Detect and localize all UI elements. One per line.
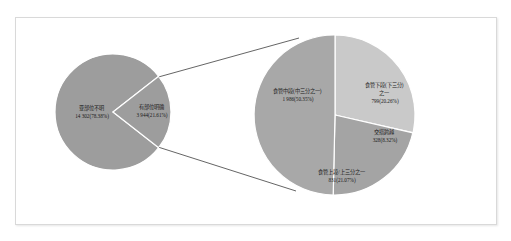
left-pie-group: 亚部位不明 14 302(78.38%) 有部位明确 3 944(21.61%) [55, 54, 171, 170]
right-pie-group: 食管下段(下三分) 之一 799(20.26%) 交搭跨越 328(8.32%)… [254, 35, 415, 195]
figure-container: 亚部位不明 14 302(78.38%) 有部位明确 3 944(21.61%)… [0, 0, 511, 241]
pie-chart-svg: 亚部位不明 14 302(78.38%) 有部位明确 3 944(21.61%)… [0, 0, 511, 241]
